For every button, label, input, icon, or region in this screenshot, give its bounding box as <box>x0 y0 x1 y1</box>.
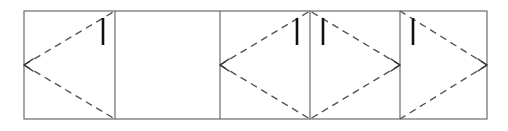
cell-1-crease-lower <box>24 65 115 119</box>
strip-border <box>24 11 487 119</box>
cell-1-crease-upper <box>24 11 115 65</box>
cell-5-crease-lower <box>400 65 487 119</box>
cell-1-crease <box>24 11 115 119</box>
cell-5-arrowhead-right-icon <box>478 59 487 71</box>
folded-strip-diagram <box>0 0 508 131</box>
cell-4-crease-lower <box>310 65 400 119</box>
cell-3-crease-lower <box>220 65 310 119</box>
cell-4-crease <box>310 11 400 119</box>
strip-outline <box>24 11 487 119</box>
cell-5-crease <box>400 11 487 119</box>
cell-3-crease <box>220 11 310 119</box>
diagram-canvas <box>0 0 508 131</box>
